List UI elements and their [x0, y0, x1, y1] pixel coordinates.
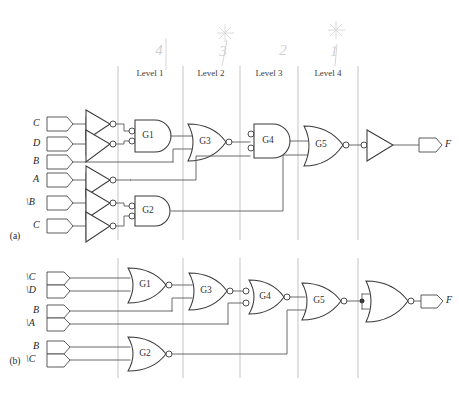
input-pin-D[interactable]: [47, 137, 73, 151]
input-pin-notD-b[interactable]: [47, 285, 70, 298]
circuit-b-output-nor: F: [347, 281, 453, 322]
output-label-F-b: F: [445, 294, 453, 305]
gate-b-G5: G5: [302, 283, 347, 320]
logic-circuit-diagram: Level 1 Level 2 Level 3 Level 4 4 3 2 1 …: [0, 0, 459, 394]
circuit-a: C D B A \B C: [26, 110, 452, 242]
gate-a-G2-input-bubble-2: [129, 213, 135, 219]
gate-a-G5-output-bubble: [343, 142, 349, 148]
gate-b-G3-label: G3: [200, 285, 212, 295]
figure-canvas: Level 1 Level 2 Level 3 Level 4 4 3 2 1 …: [0, 0, 459, 394]
gate-b-G2-output-bubble: [166, 351, 172, 357]
output-nor-body: [366, 281, 408, 322]
gate-b-G4: G4: [243, 280, 290, 314]
gate-a-G1: G1: [129, 120, 171, 152]
input-pin-B[interactable]: [47, 155, 73, 169]
handwritten-asterisk-2: [328, 21, 345, 39]
inverter-C-bubble: [110, 121, 116, 127]
gate-b-G2: G2: [128, 337, 172, 371]
input-pin-notC2-b[interactable]: [47, 354, 70, 367]
gate-a-G5: G5: [304, 126, 349, 166]
gate-a-G4-label: G4: [262, 135, 274, 145]
handwritten-asterisk-1: [217, 24, 234, 42]
gate-b-G5-output-bubble: [341, 298, 347, 304]
gate-b-G3: G3: [189, 273, 233, 310]
circuit-a-inverter-bank: [86, 110, 116, 242]
gate-b-G1: G1: [128, 268, 172, 303]
circuit-b-g4-input-wires: [228, 291, 245, 324]
gate-b-G4-input-bubble-2: [243, 300, 249, 306]
inverter-notB-bubble: [110, 200, 116, 206]
circuit-a-input-pins: C D B A \B C: [26, 117, 73, 233]
circuit-a-output-inverter: F: [349, 130, 452, 161]
handwritten-annotations: 4 3 2 1: [155, 21, 345, 70]
gate-a-G3: G3: [188, 124, 232, 161]
gate-a-G4-input-bubble-2: [248, 145, 254, 151]
input-label-A: A: [32, 173, 40, 184]
output-inverter-input-bubble: [361, 142, 367, 148]
gate-a-G2-label: G2: [142, 205, 154, 215]
gate-a-G4-input-bubble-1: [248, 131, 254, 137]
wire-G2b-to-G5b: [172, 310, 305, 354]
gate-b-G2-label: G2: [139, 348, 151, 358]
wire-notAb-to-G4b: [228, 303, 245, 324]
gate-a-G4: G4: [248, 124, 290, 158]
circuit-b: \C \D B \A B \C G1: [26, 268, 453, 371]
gate-b-G5-label: G5: [313, 295, 325, 305]
input-pin-notA-b[interactable]: [47, 318, 70, 331]
input-pin-B2-b[interactable]: [47, 341, 70, 354]
gate-b-G1-label: G1: [139, 279, 151, 289]
input-label-B2-b: B: [33, 340, 39, 351]
gate-b-G3-output-bubble: [227, 288, 233, 294]
inverter-C2-bubble: [110, 223, 116, 229]
input-pin-notB[interactable]: [47, 196, 73, 210]
wire-G2-to-G5: [171, 155, 308, 211]
gate-a-G1-label: G1: [142, 130, 154, 140]
gate-b-G4-output-bubble: [284, 294, 290, 300]
gate-b-G4-label: G4: [259, 291, 271, 301]
inverter-D-icon: [86, 130, 110, 162]
level-label-2: Level 2: [197, 68, 224, 78]
level-label-1: Level 1: [136, 68, 163, 78]
gate-a-G2: G2: [129, 196, 170, 226]
output-label-F: F: [444, 138, 452, 149]
circuit-b-input-pins: \C \D B \A B \C: [26, 271, 70, 367]
input-label-B: B: [33, 155, 39, 166]
level-label-4: Level 4: [314, 68, 342, 78]
inverter-A-bubble: [110, 177, 116, 183]
output-pin-F-b[interactable]: [421, 295, 443, 308]
inverter-D-bubble: [110, 141, 116, 147]
handwritten-number-4: 4: [155, 42, 163, 58]
output-nor-bubble: [408, 298, 414, 304]
gate-b-G1-output-bubble: [166, 282, 172, 288]
input-pin-C2[interactable]: [47, 219, 73, 233]
output-inverter-body: [367, 130, 393, 161]
handwritten-number-2: 2: [279, 42, 287, 58]
input-label-notC2-b: \C: [26, 353, 36, 364]
output-pin-F[interactable]: [419, 138, 442, 152]
inverter-C2-icon: [86, 212, 110, 242]
input-label-notA-b: \A: [26, 317, 36, 328]
input-label-D: D: [32, 137, 41, 148]
input-pin-B-b[interactable]: [47, 305, 70, 318]
input-label-notD-b: \D: [26, 284, 37, 295]
gate-a-G3-output-bubble: [226, 139, 232, 145]
input-label-notC-b: \C: [26, 271, 36, 282]
gate-a-G1-input-bubble-2: [129, 138, 135, 144]
gate-a-G2-input-bubble-1: [129, 203, 135, 209]
input-label-C2: C: [33, 219, 40, 230]
input-label-C: C: [33, 117, 40, 128]
gate-a-G5-label: G5: [315, 139, 327, 149]
gate-a-G3-label: G3: [199, 136, 211, 146]
gate-b-G4-input-bubble-1: [243, 288, 249, 294]
input-label-notB: \B: [26, 196, 35, 207]
input-pin-notC-b[interactable]: [47, 272, 70, 285]
subfigure-label-b: (b): [9, 356, 20, 367]
gate-a-G1-input-bubble-1: [129, 128, 135, 134]
level-label-3: Level 3: [255, 68, 283, 78]
input-label-B-b: B: [33, 304, 39, 315]
level-label-row: Level 1 Level 2 Level 3 Level 4: [136, 68, 342, 78]
input-pin-A[interactable]: [47, 173, 73, 187]
subfigure-label-a: (a): [10, 231, 21, 242]
input-pin-C[interactable]: [47, 117, 73, 131]
circuit-b-g3-input-wires: [172, 285, 192, 311]
